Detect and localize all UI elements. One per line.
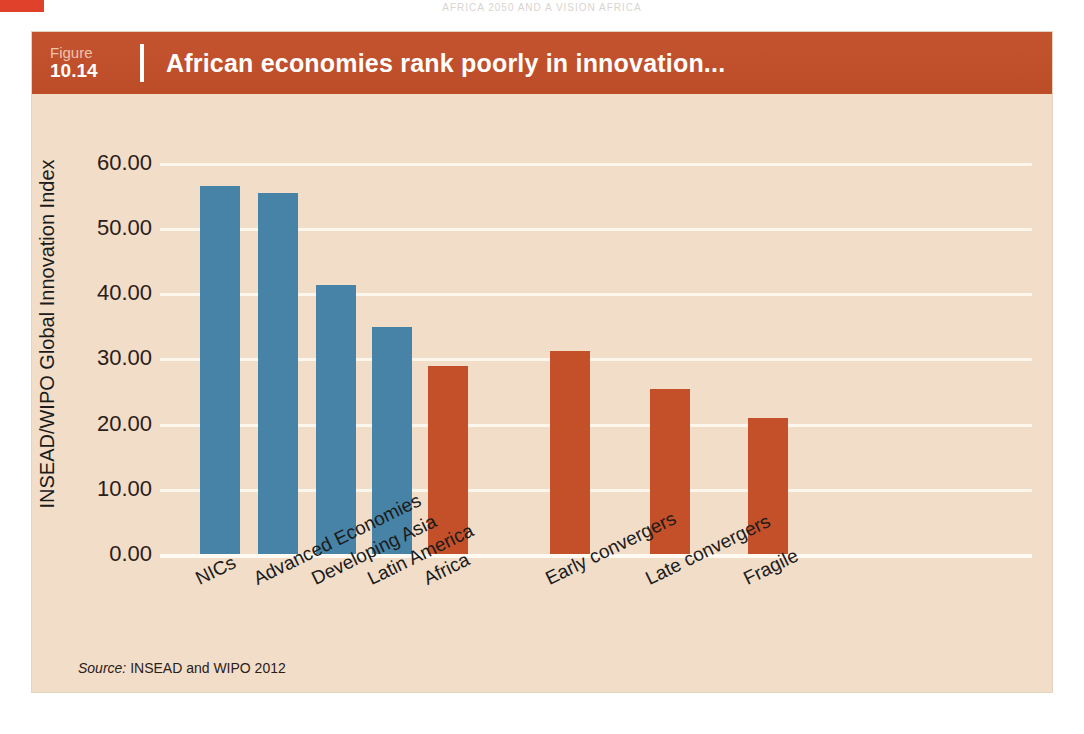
figure-title: African economies rank poorly in innovat… [166,49,725,78]
y-tick-label: 60.00 [97,150,152,176]
bar [372,327,412,554]
source-text: INSEAD and WIPO 2012 [126,660,286,676]
y-tick-label: 30.00 [97,345,152,371]
y-tick-label: 0.00 [109,541,152,567]
y-tick-label: 10.00 [97,476,152,502]
running-head: AFRICA 2050 AND A VISION AFRICA [0,0,1084,16]
y-tick-label: 20.00 [97,411,152,437]
bar [258,193,298,554]
y-tick-label: 40.00 [97,280,152,306]
source-label: Source: [78,660,126,676]
bar [550,351,590,554]
figure-number: Figure 10.14 [32,45,140,81]
plot-area: NICsAdvanced EconomiesDeveloping AsiaLat… [160,94,1032,692]
plot-wrapper: INSEAD/WIPO Global Innovation Index 60.0… [32,94,1052,692]
bar [428,366,468,554]
y-axis-tick-labels: 60.0050.0040.0030.0020.0010.000.00 [56,94,152,692]
figure-number-word: Figure [50,45,140,61]
figure-header-band: Figure 10.14 African economies rank poor… [32,32,1052,94]
y-tick-label: 50.00 [97,215,152,241]
bar [200,186,240,554]
bar-series [160,94,1032,692]
bar [650,389,690,554]
header-divider [140,44,144,82]
bar [316,285,356,554]
figure-panel: Figure 10.14 African economies rank poor… [32,32,1052,692]
figure-number-value: 10.14 [50,61,140,81]
bar [748,418,788,554]
source-note: Source: INSEAD and WIPO 2012 [78,660,286,676]
